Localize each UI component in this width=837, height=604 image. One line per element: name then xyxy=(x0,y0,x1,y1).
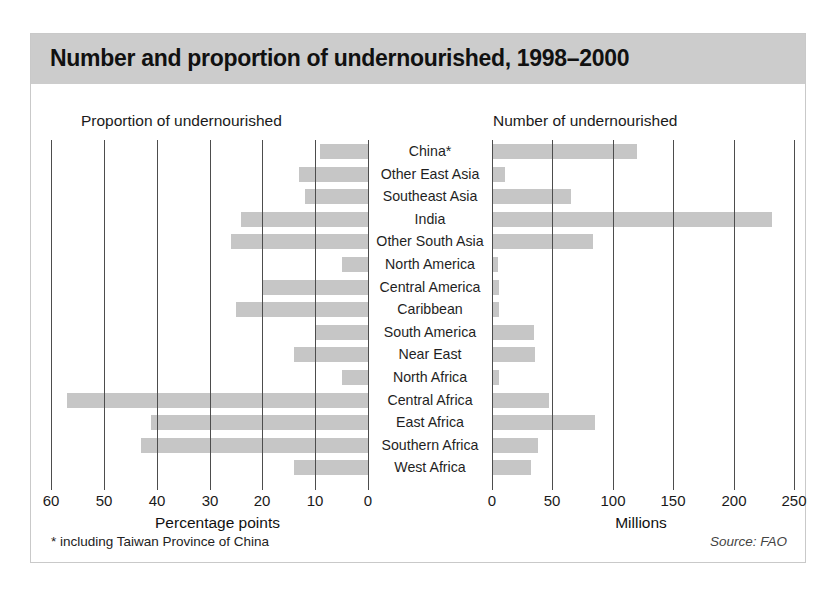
axis-tick-label: 50 xyxy=(544,492,561,509)
axis-tick-label: 20 xyxy=(254,492,271,509)
category-label: India xyxy=(368,208,492,231)
bar xyxy=(492,393,549,408)
bar-row xyxy=(492,343,806,366)
bar-row xyxy=(492,230,806,253)
axis-tick xyxy=(492,480,493,490)
source-credit: Source: FAO xyxy=(710,534,787,549)
title-band: Number and proportion of undernourished,… xyxy=(31,34,805,84)
bar xyxy=(231,234,368,249)
number-axis-title: Millions xyxy=(484,514,798,532)
gridline xyxy=(794,140,795,480)
bar xyxy=(492,189,571,204)
bar-row xyxy=(492,276,806,299)
category-label: Caribbean xyxy=(368,298,492,321)
axis-tick-label: 60 xyxy=(43,492,60,509)
bar xyxy=(320,144,368,159)
bar xyxy=(342,257,368,272)
category-label: Central America xyxy=(368,276,492,299)
chart-figure: Number and proportion of undernourished,… xyxy=(30,33,806,563)
axis-tick-label: 40 xyxy=(149,492,166,509)
gridline xyxy=(262,140,263,480)
axis-tick-label: 50 xyxy=(96,492,113,509)
bar xyxy=(294,460,368,475)
footnote: * including Taiwan Province of China xyxy=(51,534,269,549)
gridline xyxy=(673,140,674,480)
number-bars xyxy=(492,140,806,480)
bar-row xyxy=(492,185,806,208)
axis-tick-label: 10 xyxy=(307,492,324,509)
number-plot-area xyxy=(492,140,806,480)
right-panel-heading: Number of undernourished xyxy=(493,112,677,130)
gridline xyxy=(734,140,735,480)
bar xyxy=(492,438,538,453)
bar-row xyxy=(492,321,806,344)
proportion-axis: Percentage points 6050403020100 xyxy=(51,480,368,526)
bar-row xyxy=(492,411,806,434)
bar xyxy=(492,302,499,317)
gridline xyxy=(210,140,211,480)
category-label: Southeast Asia xyxy=(368,185,492,208)
axis-tick-label: 200 xyxy=(721,492,746,509)
bar-row xyxy=(492,389,806,412)
bar-row xyxy=(492,253,806,276)
bar xyxy=(492,234,593,249)
axis-tick xyxy=(673,480,674,490)
bar xyxy=(236,302,368,317)
bar xyxy=(492,415,595,430)
axis-tick xyxy=(157,480,158,490)
axis-tick-label: 150 xyxy=(660,492,685,509)
number-axis: Millions 050100150200250 xyxy=(492,480,806,526)
category-label: North Africa xyxy=(368,366,492,389)
bar xyxy=(141,438,368,453)
category-label: North America xyxy=(368,253,492,276)
axis-tick xyxy=(734,480,735,490)
bar xyxy=(67,393,368,408)
axis-tick xyxy=(51,480,52,490)
bar xyxy=(492,212,772,227)
proportion-plot-area xyxy=(51,140,368,480)
left-panel-heading: Proportion of undernourished xyxy=(81,112,282,130)
gridline xyxy=(157,140,158,480)
category-label: South America xyxy=(368,321,492,344)
screenshot-root: Number and proportion of undernourished,… xyxy=(0,0,837,604)
category-label: Central Africa xyxy=(368,389,492,412)
proportion-axis-title: Percentage points xyxy=(59,514,376,532)
bar-row xyxy=(492,298,806,321)
gridline xyxy=(104,140,105,480)
category-label-column: China*Other East AsiaSoutheast AsiaIndia… xyxy=(368,140,492,480)
axis-tick-label: 100 xyxy=(600,492,625,509)
bar xyxy=(151,415,368,430)
chart-title: Number and proportion of undernourished,… xyxy=(50,45,629,72)
bar xyxy=(492,347,535,362)
bar xyxy=(492,325,534,340)
bar xyxy=(342,370,368,385)
axis-tick xyxy=(552,480,553,490)
gridline xyxy=(51,140,52,480)
bar xyxy=(315,325,368,340)
bar xyxy=(492,280,499,295)
category-label: China* xyxy=(368,140,492,163)
bar xyxy=(241,212,368,227)
bar xyxy=(492,370,499,385)
gridline xyxy=(552,140,553,480)
gridline xyxy=(315,140,316,480)
axis-tick-label: 0 xyxy=(364,492,372,509)
bar xyxy=(492,167,505,182)
bar-row xyxy=(492,366,806,389)
category-label: Near East xyxy=(368,343,492,366)
axis-tick xyxy=(315,480,316,490)
gridline xyxy=(613,140,614,480)
category-label: Other South Asia xyxy=(368,230,492,253)
category-label: East Africa xyxy=(368,411,492,434)
axis-tick-label: 0 xyxy=(488,492,496,509)
axis-tick-label: 30 xyxy=(202,492,219,509)
axis-tick-label: 250 xyxy=(781,492,806,509)
bar xyxy=(299,167,368,182)
bar-row xyxy=(492,434,806,457)
category-label: Southern Africa xyxy=(368,434,492,457)
bar-row xyxy=(492,456,806,479)
category-label: Other East Asia xyxy=(368,163,492,186)
bar xyxy=(492,460,531,475)
bar xyxy=(492,144,637,159)
bar-row xyxy=(492,163,806,186)
